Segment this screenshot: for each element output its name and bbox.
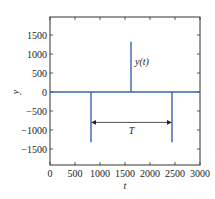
y-tick-label: 500 [32,68,47,79]
x-tick-label: 1000 [90,168,110,179]
y-tick-label: −1500 [21,144,47,155]
x-tick-label: 2000 [140,168,160,179]
period-label: T [129,125,136,136]
chart: 050010001500200025003000−1500−1000−50005… [0,0,215,199]
y-tick-label: 1000 [27,49,47,60]
y-tick-label: −1000 [21,125,47,136]
y-tick-label: −500 [26,106,47,117]
x-tick-label: 0 [48,168,53,179]
y-tick-label: 1500 [27,30,47,41]
x-tick-label: 3000 [190,168,210,179]
x-tick-label: 1500 [115,168,135,179]
x-tick-label: 500 [68,168,83,179]
x-tick-label: 2500 [165,168,185,179]
x-axis-label: t [124,180,127,191]
plot-frame [50,17,200,165]
signal-label: y(t) [134,56,150,68]
y-axis-label: y [10,89,21,95]
y-tick-label: 0 [42,87,47,98]
